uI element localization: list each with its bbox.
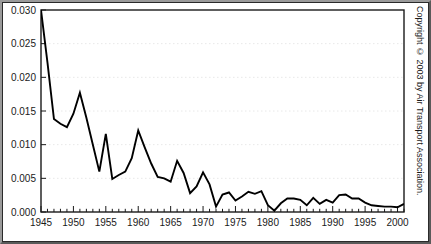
y-tick-label: 0.000 bbox=[11, 207, 36, 218]
y-tick-label: 0.010 bbox=[11, 139, 36, 150]
copyright-notice: Copyright © 2003 by Air Transport Associ… bbox=[412, 6, 428, 238]
y-tick-label: 0.015 bbox=[11, 106, 36, 117]
y-tick-label: 0.020 bbox=[11, 72, 36, 83]
y-tick-label: 0.025 bbox=[11, 38, 36, 49]
y-tick-label: 0.030 bbox=[11, 5, 36, 16]
x-tick-label: 1955 bbox=[95, 217, 118, 228]
y-tick-label: 0.005 bbox=[11, 173, 36, 184]
x-tick-label: 1995 bbox=[354, 217, 377, 228]
x-tick-label: 1980 bbox=[257, 217, 280, 228]
x-tick-label: 2000 bbox=[386, 217, 409, 228]
x-tick-label: 1975 bbox=[224, 217, 247, 228]
x-axis-tick-labels: 1945195019551960196519701975198019851990… bbox=[30, 217, 409, 228]
y-axis-tick-labels: 0.0000.0050.0100.0150.0200.0250.030 bbox=[11, 5, 36, 218]
x-tick-label: 1960 bbox=[127, 217, 150, 228]
accident-rate-line-chart: 0.0000.0050.0100.0150.0200.0250.030 1945… bbox=[0, 0, 431, 244]
gridlines bbox=[41, 10, 404, 212]
chart-figure: 0.0000.0050.0100.0150.0200.0250.030 1945… bbox=[0, 0, 431, 244]
x-tick-label: 1970 bbox=[192, 217, 215, 228]
x-tick-label: 1985 bbox=[289, 217, 312, 228]
x-tick-label: 1945 bbox=[30, 217, 53, 228]
x-tick-label: 1965 bbox=[160, 217, 183, 228]
x-tick-label: 1950 bbox=[62, 217, 85, 228]
x-tick-label: 1990 bbox=[322, 217, 345, 228]
